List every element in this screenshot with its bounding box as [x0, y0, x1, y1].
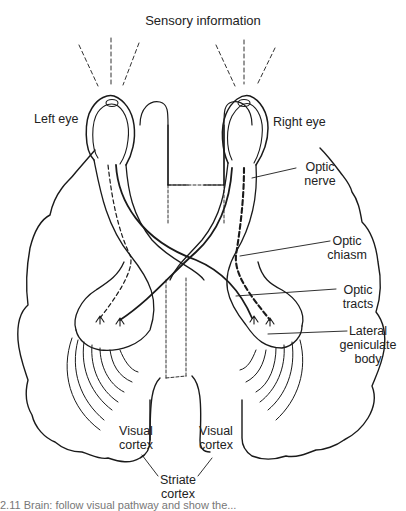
midline-top [168, 125, 224, 185]
optic-radiations-left [67, 338, 138, 430]
label-lateral-geniculate-body: Lateral geniculate body [338, 324, 398, 366]
label-optic-tracts: Optic tracts [336, 283, 380, 311]
crossed-fiber-left-to-right [116, 165, 252, 318]
label-right-eye: Right eye [273, 115, 326, 129]
optic-pathway-walls [75, 160, 303, 350]
figure-title: Sensory information [0, 14, 406, 28]
left-eye [86, 96, 134, 166]
sensory-rays-right [216, 40, 275, 86]
sensory-rays-left [79, 38, 139, 86]
label-visual-cortex-left: Visual cortex [116, 424, 156, 452]
label-striate-cortex: Striate cortex [156, 473, 200, 501]
leader-lines [142, 168, 347, 476]
figure-caption-fragment: 2.11 Brain: follow visual pathway and sh… [0, 499, 236, 511]
crossed-fiber-right-to-left [120, 168, 232, 320]
label-visual-cortex-right: Visual cortex [196, 424, 236, 452]
label-optic-chiasm: Optic chiasm [324, 234, 370, 262]
uncrossed-fiber-left [100, 165, 131, 318]
label-optic-nerve: Optic nerve [298, 160, 342, 188]
frontal-lobe-left [140, 102, 188, 185]
label-left-eye: Left eye [34, 112, 78, 126]
optic-radiations-right [240, 340, 303, 420]
right-eye [222, 96, 268, 165]
midline-lower [166, 278, 186, 378]
